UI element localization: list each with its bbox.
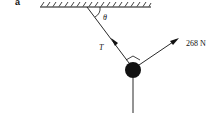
angle-arc [95,7,100,17]
tension-arrowhead-icon [111,38,118,46]
force-label: 268 N [186,39,206,48]
part-label: a [15,0,21,7]
tension-label: T [99,43,104,52]
force-diagram: a θ T [0,0,223,113]
ball [125,62,141,78]
ceiling-hatching [41,2,151,7]
right-angle-marker [126,56,140,60]
ceiling [40,2,151,7]
angle-label: θ [103,13,107,22]
force-line [139,40,176,65]
rope-line [87,7,129,63]
right-angle-inner [129,59,137,62]
force-arrowhead-icon [170,38,179,45]
